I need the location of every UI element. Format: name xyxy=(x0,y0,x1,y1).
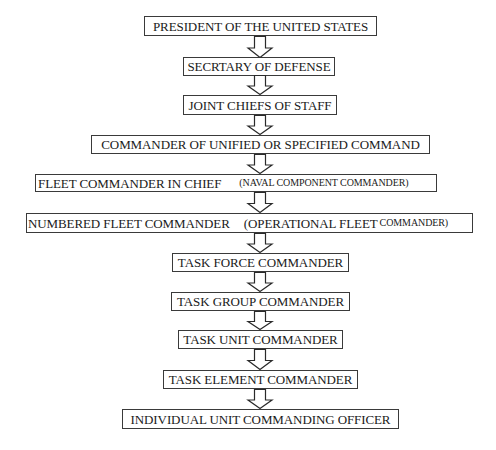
node-label: JOINT CHIEFS OF STAFF xyxy=(189,99,332,112)
down-arrow-icon xyxy=(246,154,274,174)
node-label: TASK UNIT COMMANDER xyxy=(183,333,337,346)
down-arrow-icon xyxy=(246,233,274,253)
node-task-group-commander: TASK GROUP COMMANDER xyxy=(171,292,350,311)
node-label: SECRTARY OF DEFENSE xyxy=(187,60,330,73)
node-label: PRESIDENT OF THE UNITED STATES xyxy=(153,20,368,33)
node-task-element-commander: TASK ELEMENT COMMANDER xyxy=(163,370,358,389)
node-task-force-commander: TASK FORCE COMMANDER xyxy=(172,253,349,272)
node-label: TASK FORCE COMMANDER xyxy=(178,256,343,269)
down-arrow-icon xyxy=(246,349,274,370)
node-secretary-of-defense: SECRTARY OF DEFENSE xyxy=(183,57,335,76)
down-arrow-icon xyxy=(246,311,274,330)
down-arrow-icon xyxy=(246,192,274,213)
node-label: TASK GROUP COMMANDER xyxy=(177,295,344,308)
node-label: TASK ELEMENT COMMANDER xyxy=(169,373,353,386)
node-president: PRESIDENT OF THE UNITED STATES xyxy=(144,16,377,36)
down-arrow-icon xyxy=(246,389,274,409)
node-fleet-commander-in-chief: FLEET COMMANDER IN CHIEF (NAVAL COMPONEN… xyxy=(35,174,437,192)
down-arrow-icon xyxy=(246,75,274,95)
node-note-main: (OPERATIONAL FLEET xyxy=(244,217,378,230)
node-note: (NAVAL COMPONENT COMMANDER) xyxy=(239,178,408,188)
node-joint-chiefs: JOINT CHIEFS OF STAFF xyxy=(183,95,337,115)
node-note: COMMANDER) xyxy=(380,218,448,228)
down-arrow-icon xyxy=(246,115,274,135)
node-label: NUMBERED FLEET COMMANDER xyxy=(28,217,230,230)
down-arrow-icon xyxy=(246,272,274,292)
node-unified-commander: COMMANDER OF UNIFIED OR SPECIFIED COMMAN… xyxy=(91,135,430,154)
node-individual-unit-co: INDIVIDUAL UNIT COMMANDING OFFICER xyxy=(122,409,399,429)
node-label: FLEET COMMANDER IN CHIEF xyxy=(38,177,221,190)
node-label: COMMANDER OF UNIFIED OR SPECIFIED COMMAN… xyxy=(101,138,419,151)
node-label: INDIVIDUAL UNIT COMMANDING OFFICER xyxy=(131,413,391,426)
node-task-unit-commander: TASK UNIT COMMANDER xyxy=(178,330,343,349)
node-numbered-fleet-commander: NUMBERED FLEET COMMANDER (OPERATIONAL FL… xyxy=(26,213,473,233)
down-arrow-icon xyxy=(246,36,274,58)
